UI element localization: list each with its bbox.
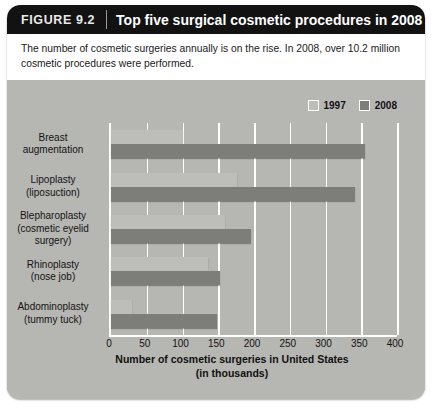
category-label-4: Abdominoplasty(tummy tuck) xyxy=(7,301,99,326)
x-axis-title-line1: Number of cosmetic surgeries in United S… xyxy=(67,352,397,366)
x-tick-300: 300 xyxy=(315,338,332,349)
figure-title: Top five surgical cosmetic procedures in… xyxy=(116,12,422,28)
category-label-line: Blepharoplasty xyxy=(7,210,99,223)
plot-wrapper xyxy=(102,123,422,345)
bar-2008-0 xyxy=(111,144,365,158)
bar-1997-4 xyxy=(111,300,132,314)
x-tick-100: 100 xyxy=(172,338,189,349)
legend-label-1997: 1997 xyxy=(324,100,346,111)
category-label-line: (cosmetic eyelid xyxy=(7,223,99,236)
header-divider xyxy=(106,10,107,29)
caption-block: The number of cosmetic surgeries annuall… xyxy=(7,34,425,80)
bar-group-4 xyxy=(111,300,397,328)
category-label-line: Breast xyxy=(7,132,99,145)
legend-entry-2008: 2008 xyxy=(359,100,397,111)
bar-1997-1 xyxy=(111,173,237,187)
figure-card: FIGURE 9.2 Top five surgical cosmetic pr… xyxy=(7,5,425,399)
chart-panel: 19972008 BreastaugmentationLipoplasty(li… xyxy=(7,80,425,399)
x-tick-150: 150 xyxy=(208,338,225,349)
plot-area xyxy=(109,123,397,337)
bar-group-1 xyxy=(111,173,397,201)
category-label-line: Lipoplasty xyxy=(7,174,99,187)
bar-2008-4 xyxy=(111,314,217,328)
category-label-line: Rhinoplasty xyxy=(7,259,99,272)
x-tick-50: 50 xyxy=(139,338,150,349)
category-label-3: Rhinoplasty(nose job) xyxy=(7,259,99,284)
category-axis-labels: BreastaugmentationLipoplasty(liposuction… xyxy=(7,123,99,335)
legend-swatch-2008 xyxy=(359,100,370,111)
bar-group-0 xyxy=(111,130,397,158)
x-tick-200: 200 xyxy=(244,338,261,349)
x-tick-0: 0 xyxy=(106,338,112,349)
x-tick-250: 250 xyxy=(279,338,296,349)
chart-legend: 19972008 xyxy=(308,100,398,111)
category-label-2: Blepharoplasty(cosmetic eyelidsurgery) xyxy=(7,210,99,248)
figure-number: FIGURE 9.2 xyxy=(21,13,95,27)
x-axis-tick-labels: 050100150200250300350400 xyxy=(102,338,422,352)
bar-2008-2 xyxy=(111,229,251,243)
category-label-0: Breastaugmentation xyxy=(7,132,99,157)
gridline-400 xyxy=(397,123,399,335)
x-tick-400: 400 xyxy=(387,338,404,349)
category-label-line: Abdominoplasty xyxy=(7,301,99,314)
bar-1997-2 xyxy=(111,215,225,229)
x-axis-title: Number of cosmetic surgeries in United S… xyxy=(67,352,397,380)
category-label-line: augmentation xyxy=(7,144,99,157)
bar-2008-1 xyxy=(111,187,355,201)
bar-2008-3 xyxy=(111,271,220,285)
legend-entry-1997: 1997 xyxy=(308,100,346,111)
legend-swatch-1997 xyxy=(308,100,319,111)
bar-1997-0 xyxy=(111,130,183,144)
category-label-line: (nose job) xyxy=(7,271,99,284)
legend-label-2008: 2008 xyxy=(375,100,397,111)
category-label-1: Lipoplasty(liposuction) xyxy=(7,174,99,199)
x-tick-350: 350 xyxy=(351,338,368,349)
bar-group-3 xyxy=(111,257,397,285)
category-label-line: surgery) xyxy=(7,235,99,248)
category-label-line: (tummy tuck) xyxy=(7,314,99,327)
category-label-line: (liposuction) xyxy=(7,187,99,200)
bar-group-2 xyxy=(111,215,397,243)
caption-text: The number of cosmetic surgeries annuall… xyxy=(21,41,408,71)
figure-header: FIGURE 9.2 Top five surgical cosmetic pr… xyxy=(7,5,425,34)
x-axis-title-line2: (in thousands) xyxy=(67,366,397,380)
bar-1997-3 xyxy=(111,257,208,271)
